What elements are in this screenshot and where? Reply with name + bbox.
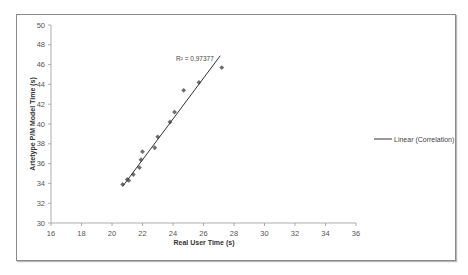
y-tick-label: 44 [37, 80, 45, 89]
y-tick-label: 32 [37, 199, 45, 208]
axes: 3032343638404244464850161820222426283032… [37, 21, 361, 238]
y-tick-label: 50 [37, 21, 45, 30]
legend: Linear (Correlation) [374, 136, 454, 144]
diamond-marker-icon [172, 110, 177, 115]
diamond-marker-icon [140, 149, 145, 154]
y-tick-label: 40 [37, 120, 45, 129]
x-tick-label: 34 [321, 229, 329, 238]
scatter-chart: 3032343638404244464850161820222426283032… [0, 0, 468, 275]
y-axis-title: Artetype P/M Model Time (s) [29, 77, 37, 171]
y-tick-label: 38 [37, 139, 45, 148]
trendline [123, 56, 221, 187]
y-tick-label: 30 [37, 219, 45, 228]
x-tick-label: 16 [47, 229, 55, 238]
diamond-marker-icon [181, 88, 186, 93]
x-tick-label: 22 [138, 229, 146, 238]
x-tick-label: 30 [260, 229, 268, 238]
r-squared-annotation: R² = 0,97377 [176, 55, 214, 62]
x-tick-label: 36 [352, 229, 360, 238]
x-tick-label: 18 [77, 229, 85, 238]
x-tick-label: 20 [108, 229, 116, 238]
y-tick-label: 48 [37, 40, 45, 49]
y-tick-label: 36 [37, 159, 45, 168]
legend-label: Linear (Correlation) [394, 136, 454, 144]
y-tick-label: 34 [37, 179, 45, 188]
linear-trendline [123, 56, 221, 187]
x-tick-label: 26 [199, 229, 207, 238]
y-tick-label: 42 [37, 100, 45, 109]
y-tick-label: 46 [37, 60, 45, 69]
diamond-marker-icon [219, 65, 224, 70]
x-tick-label: 32 [291, 229, 299, 238]
x-tick-label: 24 [169, 229, 177, 238]
x-tick-label: 28 [230, 229, 238, 238]
x-axis-title: Real User Time (s) [174, 239, 235, 247]
